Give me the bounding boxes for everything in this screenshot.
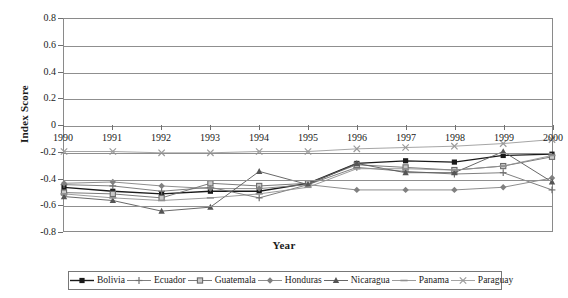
data-point-plus <box>256 195 263 202</box>
legend-label: Paraguay <box>478 276 513 286</box>
y-axis-tick-label: -0.8 <box>20 226 56 237</box>
legend-item-honduras[interactable]: Honduras <box>257 275 323 286</box>
legend-item-nicaragua[interactable]: Nicaragua <box>323 275 391 286</box>
x-axis-tick-label: 1993 <box>188 132 232 143</box>
data-point-square-filled <box>79 278 84 283</box>
data-point-square-filled <box>452 160 457 165</box>
y-axis-tick <box>58 152 63 153</box>
x-axis-tick <box>357 125 358 130</box>
legend-marker-triangle-icon <box>324 275 348 286</box>
y-axis-tick-label: -0.2 <box>20 146 56 157</box>
series-bolivia <box>61 152 554 197</box>
series-panama <box>60 155 555 200</box>
y-axis-tick <box>58 205 63 206</box>
legend-item-panama[interactable]: Panama <box>391 275 450 286</box>
gridline <box>64 206 552 207</box>
legend-item-bolivia[interactable]: Bolivia <box>69 275 126 286</box>
data-point-square-open <box>110 191 115 196</box>
x-axis-tick <box>112 125 113 130</box>
x-axis-title: Year <box>0 239 568 251</box>
x-axis-tick <box>406 125 407 130</box>
gridline <box>64 46 552 47</box>
data-point-plus <box>136 277 143 284</box>
y-axis-tick <box>58 18 63 19</box>
x-axis-tick <box>259 125 260 130</box>
legend-item-ecuador[interactable]: Ecuador <box>126 275 187 286</box>
data-point-diamond <box>158 183 164 189</box>
legend-label: Panama <box>419 276 449 286</box>
x-axis-tick-label: 1999 <box>482 132 526 143</box>
legend-item-guatemala[interactable]: Guatemala <box>187 275 257 286</box>
x-axis-tick-label: 1991 <box>90 132 134 143</box>
x-axis-tick <box>553 125 554 130</box>
y-axis-tick <box>58 45 63 46</box>
legend-marker-diamond-icon <box>258 275 282 286</box>
data-point-square-filled <box>403 158 408 163</box>
data-point-diamond <box>402 187 408 193</box>
legend-label: Ecuador <box>154 276 186 286</box>
y-axis-tick-label: 0.6 <box>20 39 56 50</box>
data-point-square-open <box>159 195 164 200</box>
x-axis-tick-label: 1998 <box>433 132 477 143</box>
x-axis-tick <box>161 125 162 130</box>
y-axis-tick-label: 0 <box>20 119 56 130</box>
y-axis-tick <box>58 179 63 180</box>
x-axis-tick-label: 1995 <box>286 132 330 143</box>
data-point-diamond <box>354 187 360 193</box>
data-point-square-open <box>208 181 213 186</box>
chart-container: Index Score 0.80.60.40.20-0.2-0.4-0.6-0.… <box>0 0 568 298</box>
legend-label: Guatemala <box>215 276 256 286</box>
y-axis-tick <box>58 72 63 73</box>
legend-label: Honduras <box>285 276 322 286</box>
gridline <box>64 153 552 154</box>
x-axis-tick-label: 1994 <box>237 132 281 143</box>
legend-label: Nicaragua <box>351 276 390 286</box>
legend-marker-square-open-icon <box>188 275 212 286</box>
data-point-diamond <box>500 184 506 190</box>
data-point-diamond <box>451 187 457 193</box>
legend-marker-dash-icon <box>392 275 416 286</box>
x-axis-tick-label: 1996 <box>335 132 379 143</box>
x-axis-tick-label: 1997 <box>384 132 428 143</box>
y-axis-tick <box>58 98 63 99</box>
legend-label: Bolivia <box>97 276 125 286</box>
gridline <box>64 180 552 181</box>
y-axis-tick-label: -0.4 <box>20 173 56 184</box>
y-axis-tick <box>58 232 63 233</box>
data-point-plus <box>549 187 556 194</box>
y-axis-tick-label: 0.8 <box>20 12 56 23</box>
y-axis-tick-label: 0.4 <box>20 66 56 77</box>
x-axis-tick <box>308 125 309 130</box>
x-axis-tick <box>210 125 211 130</box>
legend-item-paraguay[interactable]: Paraguay <box>450 275 514 286</box>
data-point-diamond <box>267 277 273 283</box>
data-point-square-open <box>197 278 202 283</box>
chart-legend: BoliviaEcuadorGuatemalaHondurasNicaragua… <box>68 271 502 290</box>
gridline <box>64 99 552 100</box>
data-point-plus <box>500 169 507 176</box>
legend-marker-square-filled-icon <box>70 275 94 286</box>
x-axis-tick <box>63 125 64 130</box>
x-axis-tick-label: 1990 <box>41 132 85 143</box>
x-axis-tick-label: 1992 <box>139 132 183 143</box>
y-axis-tick-label: 0.2 <box>20 92 56 103</box>
data-point-triangle <box>256 168 262 174</box>
x-axis-tick-label: 2000 <box>531 132 568 143</box>
x-axis-tick <box>455 125 456 130</box>
legend-marker-plus-icon <box>127 275 151 286</box>
legend-marker-cross-icon <box>451 275 475 286</box>
x-axis-tick <box>504 125 505 130</box>
y-axis-tick-label: -0.6 <box>20 199 56 210</box>
gridline <box>64 73 552 74</box>
